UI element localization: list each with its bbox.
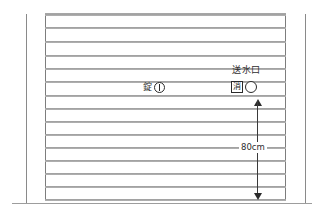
ground-line [12,203,312,204]
inlet-circle-icon [245,81,257,93]
shutter-technical-drawing: 錠 送水口 消 80cm [0,0,321,218]
right-wall-line [305,14,306,203]
water-inlet-symbol-group: 消 [231,81,257,93]
fire-hydrant-box-icon: 消 [231,81,243,93]
shutter-slat [45,14,286,16]
left-wall-line [26,14,27,203]
arrow-head-down [254,193,262,200]
water-inlet-label: 送水口 [232,66,261,75]
shutter-slat [45,95,286,97]
lock-label: 錠 [143,83,152,92]
shutter-slat [45,41,286,43]
shutter-slat [45,27,286,29]
lock-annotation: 錠 [143,82,165,93]
shutter-slat [45,55,286,57]
dimension-value-label: 80cm [239,142,267,153]
keyhole-circle-icon [154,82,165,93]
